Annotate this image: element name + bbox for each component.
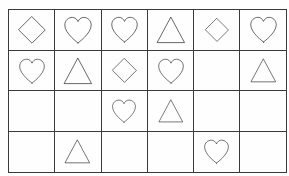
empty-cell bbox=[194, 51, 239, 91]
grid-cell-r3c5[interactable] bbox=[194, 91, 240, 132]
grid-cell-r2c5[interactable] bbox=[194, 50, 240, 91]
empty-cell bbox=[240, 91, 285, 131]
empty-cell bbox=[240, 132, 285, 172]
grid-cell-r2c4[interactable] bbox=[147, 50, 193, 91]
grid-body bbox=[9, 10, 287, 173]
grid-cell-r1c5[interactable] bbox=[194, 10, 240, 51]
grid-cell-r1c3[interactable] bbox=[101, 10, 147, 51]
grid-row bbox=[9, 91, 287, 132]
grid-row bbox=[9, 132, 287, 173]
heart-shape bbox=[9, 51, 54, 91]
diamond-shape bbox=[9, 10, 54, 50]
diamond-shape bbox=[102, 51, 147, 91]
empty-cell bbox=[55, 91, 100, 131]
grid-cell-r4c3[interactable] bbox=[101, 132, 147, 173]
empty-cell bbox=[9, 91, 54, 131]
grid-cell-r1c1[interactable] bbox=[9, 10, 55, 51]
grid-cell-r2c2[interactable] bbox=[55, 50, 101, 91]
diamond-shape bbox=[194, 10, 239, 50]
grid-cell-r4c5[interactable] bbox=[194, 132, 240, 173]
empty-cell bbox=[9, 132, 54, 172]
grid-cell-r3c4[interactable] bbox=[147, 91, 193, 132]
shape-grid bbox=[8, 9, 287, 173]
heart-shape bbox=[102, 10, 147, 50]
grid-cell-r3c6[interactable] bbox=[240, 91, 286, 132]
empty-cell bbox=[148, 132, 193, 172]
heart-shape bbox=[194, 132, 239, 172]
heart-shape bbox=[102, 91, 147, 131]
grid-cell-r3c3[interactable] bbox=[101, 91, 147, 132]
triangle-shape bbox=[55, 132, 100, 172]
empty-cell bbox=[194, 91, 239, 131]
grid-cell-r1c6[interactable] bbox=[240, 10, 286, 51]
grid-cell-r2c6[interactable] bbox=[240, 50, 286, 91]
grid-cell-r4c2[interactable] bbox=[55, 132, 101, 173]
grid-cell-r4c6[interactable] bbox=[240, 132, 286, 173]
grid-row bbox=[9, 10, 287, 51]
shape-grid-page bbox=[0, 0, 289, 176]
grid-cell-r4c4[interactable] bbox=[147, 132, 193, 173]
grid-cell-r3c1[interactable] bbox=[9, 91, 55, 132]
grid-cell-r3c2[interactable] bbox=[55, 91, 101, 132]
grid-cell-r2c1[interactable] bbox=[9, 50, 55, 91]
triangle-shape bbox=[148, 10, 193, 50]
triangle-shape bbox=[148, 91, 193, 131]
heart-shape bbox=[148, 51, 193, 91]
empty-cell bbox=[102, 132, 147, 172]
grid-row bbox=[9, 50, 287, 91]
grid-cell-r1c2[interactable] bbox=[55, 10, 101, 51]
grid-cell-r2c3[interactable] bbox=[101, 50, 147, 91]
triangle-shape bbox=[240, 51, 285, 91]
triangle-shape bbox=[55, 51, 100, 91]
grid-cell-r4c1[interactable] bbox=[9, 132, 55, 173]
grid-container bbox=[8, 9, 280, 168]
grid-cell-r1c4[interactable] bbox=[147, 10, 193, 51]
heart-shape bbox=[240, 10, 285, 50]
heart-shape bbox=[55, 10, 100, 50]
